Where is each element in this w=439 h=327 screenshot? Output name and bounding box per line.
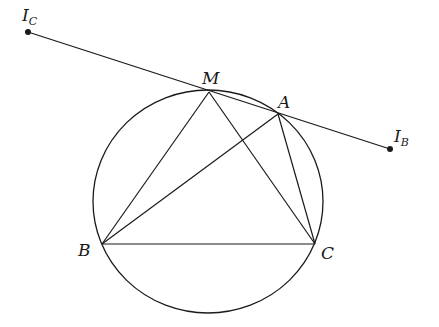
label-ib: IB xyxy=(393,126,409,149)
point-ic-dot xyxy=(25,29,31,35)
label-c: C xyxy=(321,243,334,263)
segment-ac xyxy=(278,114,315,244)
label-a: A xyxy=(276,92,290,112)
label-ic: IC xyxy=(21,5,38,28)
circumcircle xyxy=(93,90,323,313)
segment-mb xyxy=(102,92,209,244)
geometry-diagram: IC M A IB B C xyxy=(0,0,439,327)
label-b: B xyxy=(77,240,91,260)
line-ic-ib xyxy=(28,32,390,149)
segment-mc xyxy=(209,92,315,244)
point-ib-dot xyxy=(387,146,393,152)
segment-ab xyxy=(102,114,278,244)
label-m: M xyxy=(201,68,220,88)
